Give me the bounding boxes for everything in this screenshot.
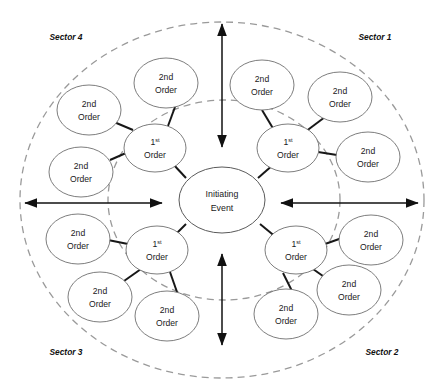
second-order-s2-b-shape[interactable] [317, 265, 381, 315]
second-order-s2-b-line2: Order [338, 292, 360, 302]
second-order-s1-a[interactable]: 2nd Order [230, 60, 294, 110]
second-order-s1-b-line1: 2nd [333, 86, 348, 96]
first-order-sector-3[interactable]: 1st Order [126, 226, 188, 274]
second-order-s3-a[interactable]: 2nd Order [135, 291, 199, 341]
second-order-s3-c-shape[interactable] [46, 214, 110, 264]
second-order-s4-b[interactable]: 2nd Order [57, 85, 121, 135]
connector-first-order-s4-to-second-order-s4-c [168, 107, 175, 126]
connector-first-order-s4-to-second-order-s4-b [114, 122, 133, 130]
second-order-s1-c-line1: 2nd [361, 146, 376, 156]
first-order-sector-3-shape[interactable] [126, 226, 188, 274]
first-order-sector-1-shape[interactable] [257, 124, 319, 172]
second-order-s4-a-line1: 2nd [74, 161, 89, 171]
second-order-s4-a[interactable]: 2nd Order [49, 147, 113, 197]
first-order-sector-2[interactable]: 1st Order [265, 226, 327, 274]
second-order-s1-a-line2: Order [251, 87, 273, 97]
second-order-s4-c[interactable]: 2nd Order [134, 58, 198, 108]
second-order-s1-b-shape[interactable] [308, 72, 372, 122]
first-order-sector-1[interactable]: 1st Order [257, 124, 319, 172]
sector-label-3: Sector 3 [49, 347, 82, 357]
second-order-s3-c[interactable]: 2nd Order [46, 214, 110, 264]
initiating-event-line1: Initiating [206, 189, 239, 199]
second-order-s3-b-line1: 2nd [93, 286, 108, 296]
connector-first-order-s3-to-second-order-s3-b [124, 269, 141, 281]
second-order-s3-b-line2: Order [89, 299, 111, 309]
second-order-s3-c-line1: 2nd [71, 228, 86, 238]
first-order-sector-3-line2: Order [146, 252, 168, 262]
second-order-s3-a-shape[interactable] [135, 291, 199, 341]
second-order-s2-c-shape[interactable] [254, 289, 318, 339]
connector-first-order-s4-to-second-order-s4-a [110, 153, 126, 160]
sector-label-2: Sector 2 [365, 347, 398, 357]
second-order-s4-b-line2: Order [78, 112, 100, 122]
second-order-s1-a-line1: 2nd [255, 74, 270, 84]
sector-label-4: Sector 4 [49, 32, 82, 42]
second-order-s3-b[interactable]: 2nd Order [68, 272, 132, 322]
second-order-s2-c-line1: 2nd [279, 303, 294, 313]
second-order-s1-b[interactable]: 2nd Order [308, 72, 372, 122]
second-order-s3-a-line1: 2nd [160, 305, 175, 315]
second-order-s4-c-shape[interactable] [134, 58, 198, 108]
second-order-s3-c-line2: Order [67, 241, 89, 251]
second-order-s4-b-line1: 2nd [82, 99, 97, 109]
initiating-event-shape[interactable] [179, 167, 265, 233]
second-order-s2-c-line2: Order [275, 316, 297, 326]
second-order-s1-a-shape[interactable] [230, 60, 294, 110]
first-order-sector-2-line2: Order [285, 252, 307, 262]
second-order-s2-a-line2: Order [360, 242, 382, 252]
second-order-s4-a-shape[interactable] [49, 147, 113, 197]
initiating-event-line2: Event [211, 203, 234, 213]
second-order-s2-b[interactable]: 2nd Order [317, 265, 381, 315]
connector-first-order-s3-to-second-order-s3-c [108, 240, 128, 244]
second-order-s1-c[interactable]: 2nd Order [336, 132, 400, 182]
second-order-s2-a-line1: 2nd [364, 229, 379, 239]
second-order-s4-c-line1: 2nd [159, 72, 174, 82]
diagram-canvas: 2nd Order 2nd Order 2nd Order 2nd Order [0, 0, 441, 385]
second-order-s2-b-line1: 2nd [342, 279, 357, 289]
first-order-sector-4-line2: Order [144, 150, 166, 160]
first-order-sector-4-shape[interactable] [124, 124, 186, 172]
connector-first-order-s3-to-second-order-s3-a [170, 272, 177, 292]
first-order-sector-2-shape[interactable] [265, 226, 327, 274]
second-order-s4-c-line2: Order [155, 85, 177, 95]
second-order-s1-b-line2: Order [329, 99, 351, 109]
second-order-s3-a-line2: Order [156, 318, 178, 328]
connector-first-order-s1-to-second-order-s1-c [318, 152, 337, 155]
initiating-event-node[interactable]: Initiating Event [179, 167, 265, 233]
second-order-s4-a-line2: Order [70, 174, 92, 184]
second-order-s2-c[interactable]: 2nd Order [254, 289, 318, 339]
second-order-s4-b-shape[interactable] [57, 85, 121, 135]
second-order-s1-c-line2: Order [357, 159, 379, 169]
sector-label-1: Sector 1 [358, 32, 391, 42]
second-order-s2-a-shape[interactable] [339, 215, 403, 265]
second-order-s2-a[interactable]: 2nd Order [339, 215, 403, 265]
first-order-sector-4[interactable]: 1st Order [124, 124, 186, 172]
second-order-s3-b-shape[interactable] [68, 272, 132, 322]
first-order-sector-1-line2: Order [277, 150, 299, 160]
radial-sector-diagram: 2nd Order 2nd Order 2nd Order 2nd Order [0, 0, 441, 385]
second-order-s1-c-shape[interactable] [336, 132, 400, 182]
